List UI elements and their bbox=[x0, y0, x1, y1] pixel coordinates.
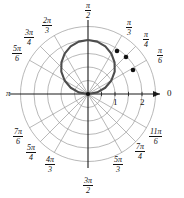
fraction-numerator: 3π bbox=[83, 176, 93, 186]
angle-label-7pi-over-4: 7π4 bbox=[135, 142, 145, 161]
fraction-numerator: 7π bbox=[13, 127, 23, 137]
angle-label-5pi-over-3: 5π3 bbox=[113, 155, 123, 174]
angular-gridline bbox=[40, 94, 88, 142]
fraction: 2π3 bbox=[42, 16, 52, 35]
fraction-numerator: π bbox=[85, 1, 91, 11]
fraction-numerator: π bbox=[157, 46, 163, 56]
angular-gridline bbox=[30, 94, 88, 128]
fraction-denominator: 4 bbox=[143, 40, 149, 49]
fraction: 7π6 bbox=[13, 127, 23, 146]
marked-point bbox=[115, 49, 120, 54]
fraction-denominator: 3 bbox=[45, 165, 55, 174]
fraction-numerator: 5π bbox=[113, 155, 123, 165]
fraction: π2 bbox=[85, 1, 91, 20]
angular-gridline bbox=[54, 36, 88, 94]
fraction-denominator: 6 bbox=[12, 54, 22, 63]
angle-label-pi-over-2: π2 bbox=[85, 1, 91, 20]
axis-label-right: 0 bbox=[167, 89, 172, 98]
axis-label-right-text: 0 bbox=[167, 88, 172, 98]
fraction-numerator: 2π bbox=[42, 16, 52, 26]
angle-label-3pi-over-4: 3π4 bbox=[24, 28, 34, 47]
angle-label-11pi-over-6: 11π6 bbox=[149, 127, 162, 146]
angle-label-5pi-over-4: 5π4 bbox=[26, 143, 36, 162]
angle-label-pi-over-3: π3 bbox=[126, 18, 132, 37]
fraction: 5π3 bbox=[113, 155, 123, 174]
fraction-numerator: 7π bbox=[135, 142, 145, 152]
fraction-numerator: π bbox=[126, 18, 132, 28]
marked-point-group bbox=[115, 49, 136, 73]
angle-label-pi-over-6: π6 bbox=[157, 46, 163, 65]
fraction-numerator: 5π bbox=[26, 143, 36, 153]
fraction: 7π4 bbox=[135, 142, 145, 161]
radial-tick-label-1: 1 bbox=[113, 98, 118, 107]
fraction-numerator: 11π bbox=[149, 127, 162, 137]
angle-label-pi-over-4: π4 bbox=[143, 30, 149, 49]
fraction: π6 bbox=[157, 46, 163, 65]
fraction: 11π6 bbox=[149, 127, 162, 146]
fraction-denominator: 6 bbox=[157, 56, 163, 65]
polar-axis-arrow-icon bbox=[153, 91, 160, 97]
marked-point bbox=[124, 55, 129, 60]
radial-tick-label-1-text: 1 bbox=[113, 97, 118, 107]
angular-gridline bbox=[30, 60, 88, 94]
fraction-denominator: 6 bbox=[149, 137, 162, 146]
fraction-numerator: 5π bbox=[12, 44, 22, 54]
fraction-denominator: 2 bbox=[83, 186, 93, 195]
fraction-denominator: 3 bbox=[113, 165, 123, 174]
angular-gridline bbox=[88, 36, 122, 94]
angle-label-5pi-over-6: 5π6 bbox=[12, 44, 22, 63]
fraction: 4π3 bbox=[45, 155, 55, 174]
fraction: π4 bbox=[143, 30, 149, 49]
axis-label-left: π bbox=[6, 89, 11, 98]
origin-point bbox=[86, 92, 90, 96]
marked-point bbox=[131, 68, 136, 73]
fraction: 5π6 bbox=[12, 44, 22, 63]
angle-label-3pi-over-2: 3π2 bbox=[83, 176, 93, 195]
radial-tick-label-2-text: 2 bbox=[140, 97, 145, 107]
radial-tick-label-2: 2 bbox=[140, 98, 145, 107]
fraction-numerator: 3π bbox=[24, 28, 34, 38]
fraction-denominator: 3 bbox=[42, 26, 52, 35]
fraction-denominator: 4 bbox=[135, 152, 145, 161]
angular-gridline bbox=[88, 60, 146, 94]
angle-label-4pi-over-3: 4π3 bbox=[45, 155, 55, 174]
fraction-denominator: 2 bbox=[85, 11, 91, 20]
angle-label-7pi-over-6: 7π6 bbox=[13, 127, 23, 146]
fraction: 3π2 bbox=[83, 176, 93, 195]
angle-label-2pi-over-3: 2π3 bbox=[42, 16, 52, 35]
fraction-denominator: 3 bbox=[126, 28, 132, 37]
fraction-denominator: 6 bbox=[13, 137, 23, 146]
fraction: 5π4 bbox=[26, 143, 36, 162]
fraction: 3π4 bbox=[24, 28, 34, 47]
fraction-denominator: 4 bbox=[24, 38, 34, 47]
axis-label-left-text: π bbox=[6, 88, 11, 98]
fraction-numerator: π bbox=[143, 30, 149, 40]
fraction-numerator: 4π bbox=[45, 155, 55, 165]
angular-gridline bbox=[88, 94, 136, 142]
angular-gridline bbox=[54, 94, 88, 152]
fraction-denominator: 4 bbox=[26, 153, 36, 162]
fraction: π3 bbox=[126, 18, 132, 37]
polar-plot-figure: π22π33π45π6π3π4π67π65π44π35π37π411π63π2 … bbox=[0, 0, 184, 198]
